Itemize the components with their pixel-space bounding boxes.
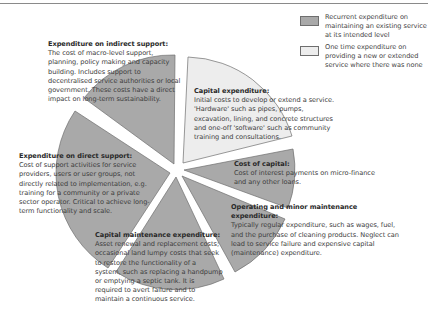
label-title: Operating and minor maintenance expendit… [231,203,399,221]
label-body: Asset renewal and replacement costs; occ… [95,240,223,304]
label-title: Cost of capital: [234,160,379,169]
legend: Recurrent expenditure on maintaining an … [325,13,428,72]
label-capital-maintenance: Capital maintenance expenditure: Asset r… [95,231,223,305]
label-title: Capital maintenance expenditure: [95,231,223,240]
label-operating-maintenance: Operating and minor maintenance expendit… [231,203,399,258]
label-cost-of-capital: Cost of capital: Cost of interest paymen… [234,160,379,188]
label-body: Cost of support activities for service p… [19,161,159,216]
legend-item-recurrent: Recurrent expenditure on maintaining an … [325,13,428,41]
label-body: Cost of interest payments on micro-finan… [234,169,379,187]
label-body: Initial costs to develop or extend a ser… [194,96,339,142]
one-time-swatch-icon [300,46,319,56]
label-direct-support: Expenditure on direct support: Cost of s… [19,152,159,216]
label-title: Capital expenditure: [194,87,339,96]
legend-text-recurrent: Recurrent expenditure on maintaining an … [325,13,428,41]
label-body: Typically regular expenditure, such as w… [231,221,399,258]
label-title: Expenditure on indirect support: [48,40,183,49]
label-title: Expenditure on direct support: [19,152,159,161]
label-indirect-support: Expenditure on indirect support: The cos… [48,40,183,104]
legend-text-one-time: One time expenditure on providing a new … [325,43,428,71]
legend-item-one-time: One time expenditure on providing a new … [325,43,428,71]
label-body: The cost of macro-level support, plannin… [48,49,183,104]
label-capital-expenditure: Capital expenditure: Initial costs to de… [194,87,339,142]
recurrent-swatch-icon [300,16,319,26]
